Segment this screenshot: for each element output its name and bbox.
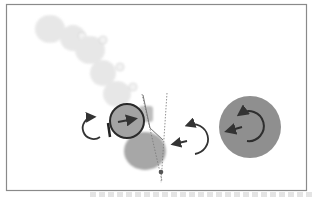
- object-current-position: [110, 104, 144, 138]
- pivot-point: [159, 170, 164, 175]
- caption-fragment: [90, 192, 312, 197]
- diagram-figure: [0, 0, 317, 197]
- large-disc: [219, 96, 281, 158]
